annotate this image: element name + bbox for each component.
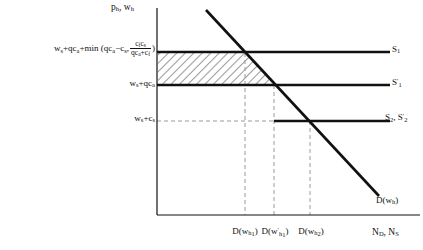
- curve-label-s1-prime: S′1: [392, 78, 402, 89]
- y-tick-label-p-low: ws+cs: [0, 114, 155, 124]
- y-tick-label-p-mid: ws+qca: [0, 79, 155, 89]
- curve-label-s2: S2, S′2: [385, 113, 407, 124]
- x-axis-title: ND, NS: [372, 228, 399, 238]
- curve-label-s1: S1: [392, 45, 400, 55]
- x-tick-label-d-wh2: D(wh2): [282, 227, 340, 239]
- curve-label-demand: D(wh): [376, 196, 398, 206]
- hatched-surplus-region: [158, 53, 274, 84]
- y-tick-label-p-high: ws+qca+min (qca−cs,cfcsqca+cf): [0, 40, 155, 58]
- fraction-cfcs-over-qca-cf: cfcsqca+cf: [130, 40, 151, 58]
- plot-canvas: [0, 0, 423, 250]
- demand-curve: [206, 10, 379, 196]
- y-axis-title: ph, wh: [111, 3, 134, 13]
- supply-demand-figure: ph, wh ND, NS ws+qca+min (qca−cs,cfcsqca…: [0, 0, 423, 250]
